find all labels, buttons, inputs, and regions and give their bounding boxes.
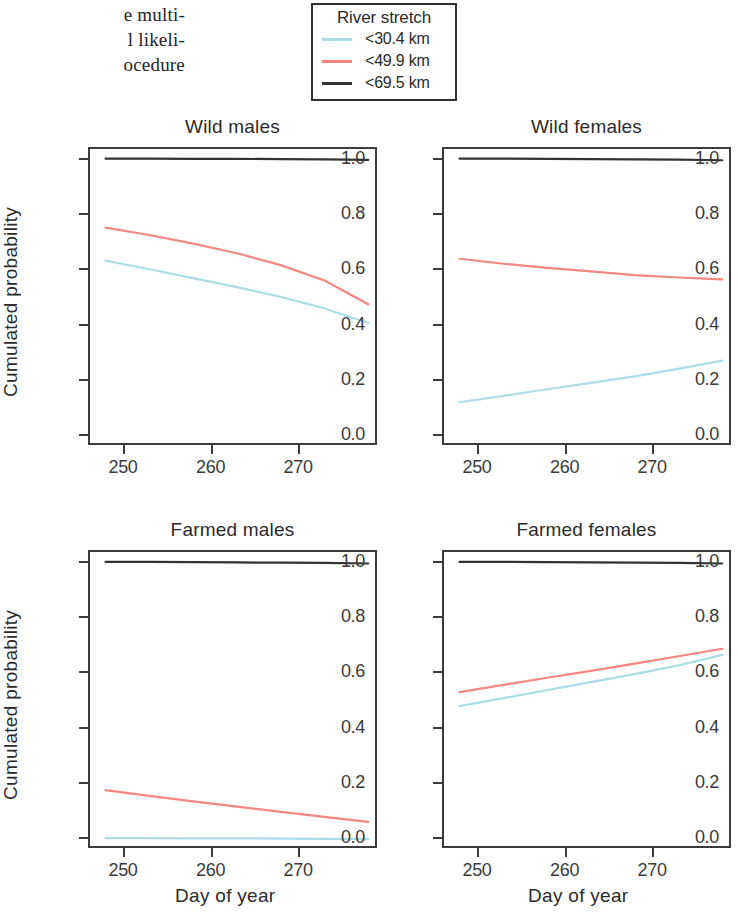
y-axis-tick xyxy=(433,727,442,729)
y-axis-tick xyxy=(433,379,442,381)
y-axis-tick xyxy=(433,158,442,160)
y-axis-tick-label: 0.6 xyxy=(341,661,365,682)
y-axis-tick-label: 0.4 xyxy=(695,716,719,737)
x-axis-tick-label: 260 xyxy=(196,860,225,881)
x-axis-tick xyxy=(211,848,213,857)
y-axis-tick-label: 0.2 xyxy=(695,368,719,389)
y-axis-tick xyxy=(433,671,442,673)
page-text-fragment: e multi- l likeli- ocedure xyxy=(0,2,185,77)
panel-farmed-females: Farmed females 0.00.20.40.60.81.02502602… xyxy=(442,550,731,848)
y-axis-tick xyxy=(433,782,442,784)
series-line xyxy=(460,361,723,403)
y-axis-tick-label: 0.4 xyxy=(695,313,719,334)
series-line xyxy=(460,159,723,161)
legend-color-swatch-icon xyxy=(322,82,352,85)
y-axis-tick xyxy=(433,616,442,618)
panel-title: Wild males xyxy=(88,116,377,138)
y-axis-tick-label: 1.0 xyxy=(341,551,365,572)
series-line xyxy=(106,790,369,822)
legend-item-2: <69.5 km xyxy=(313,72,455,94)
series-line xyxy=(460,649,723,692)
panel-wild-females: Wild females 0.00.20.40.60.81.0250260270 xyxy=(442,147,731,445)
x-axis-tick-label: 260 xyxy=(550,457,579,478)
y-axis-tick xyxy=(79,434,88,436)
plot-lines xyxy=(442,147,731,445)
y-axis-tick-label: 0.4 xyxy=(341,313,365,334)
y-axis-tick-label: 0.2 xyxy=(341,771,365,792)
legend-item-0: <30.4 km xyxy=(313,28,455,50)
y-axis-tick-label: 1.0 xyxy=(695,148,719,169)
plot-lines xyxy=(442,550,731,848)
series-line xyxy=(106,261,369,323)
y-axis-tick xyxy=(79,782,88,784)
panel-farmed-males: Farmed males 0.00.20.40.60.81.0250260270 xyxy=(88,550,377,848)
legend-item-label: <69.5 km xyxy=(365,74,430,92)
y-axis-tick-label: 0.4 xyxy=(341,716,365,737)
x-axis-tick-label: 250 xyxy=(108,457,137,478)
page-text-line-1: e multi- xyxy=(0,2,185,27)
y-axis-tick xyxy=(79,158,88,160)
x-axis-tick xyxy=(123,445,125,454)
y-axis-tick xyxy=(433,837,442,839)
series-line xyxy=(460,259,723,280)
x-axis-tick-label: 270 xyxy=(638,860,667,881)
y-axis-tick xyxy=(79,379,88,381)
y-axis-tick-label: 0.0 xyxy=(341,826,365,847)
y-axis-tick xyxy=(79,671,88,673)
y-axis-tick xyxy=(79,561,88,563)
x-axis-tick xyxy=(565,848,567,857)
x-axis-tick-label: 270 xyxy=(284,860,313,881)
y-axis-tick-label: 0.8 xyxy=(341,203,365,224)
x-axis-tick xyxy=(211,445,213,454)
y-axis-tick xyxy=(433,434,442,436)
x-axis-label-panel-1: Day of year xyxy=(528,885,628,907)
series-line xyxy=(106,838,369,839)
y-axis-tick xyxy=(79,727,88,729)
y-axis-tick-label: 0.8 xyxy=(695,606,719,627)
y-axis-tick-label: 0.6 xyxy=(695,661,719,682)
x-axis-tick xyxy=(652,848,654,857)
x-axis-tick-label: 260 xyxy=(550,860,579,881)
legend-item-label: <49.9 km xyxy=(365,52,430,70)
x-axis-tick xyxy=(298,445,300,454)
x-axis-tick xyxy=(477,445,479,454)
y-axis-tick-label: 0.0 xyxy=(695,423,719,444)
panel-title: Farmed females xyxy=(442,519,731,541)
legend-item-1: <49.9 km xyxy=(313,50,455,72)
y-axis-tick xyxy=(79,268,88,270)
y-axis-tick xyxy=(79,213,88,215)
y-axis-tick xyxy=(79,616,88,618)
y-axis-tick xyxy=(79,324,88,326)
series-line xyxy=(106,159,369,160)
x-axis-tick-label: 260 xyxy=(196,457,225,478)
legend-color-swatch-icon xyxy=(322,38,352,41)
y-axis-label-row2: Cumulated probability xyxy=(0,560,34,850)
plot-lines xyxy=(88,147,377,445)
x-axis-tick-label: 250 xyxy=(462,457,491,478)
x-axis-tick xyxy=(565,445,567,454)
panel-wild-males: Wild males 0.00.20.40.60.81.0250260270 xyxy=(88,147,377,445)
page-text-line-2: l likeli- xyxy=(0,27,185,52)
y-axis-tick-label: 0.2 xyxy=(341,368,365,389)
y-axis-tick-label: 0.8 xyxy=(341,606,365,627)
y-axis-tick xyxy=(79,837,88,839)
x-axis-tick xyxy=(652,445,654,454)
series-line xyxy=(460,655,723,706)
x-axis-label-panel-0: Day of year xyxy=(175,885,275,907)
y-axis-tick-label: 0.0 xyxy=(341,423,365,444)
x-axis-tick-label: 270 xyxy=(284,457,313,478)
y-axis-tick-label: 0.6 xyxy=(695,258,719,279)
y-axis-tick-label: 0.2 xyxy=(695,771,719,792)
y-axis-tick-label: 0.0 xyxy=(695,826,719,847)
x-axis-tick-label: 270 xyxy=(638,457,667,478)
x-axis-tick xyxy=(477,848,479,857)
y-axis-tick xyxy=(433,324,442,326)
x-axis-tick xyxy=(123,848,125,857)
legend: River stretch <30.4 km <49.9 km <69.5 km xyxy=(311,3,457,101)
panel-title: Farmed males xyxy=(88,519,377,541)
y-axis-tick-label: 0.8 xyxy=(695,203,719,224)
y-axis-tick xyxy=(433,561,442,563)
page-text-line-3: ocedure xyxy=(0,52,185,77)
y-axis-label-row1: Cumulated probability xyxy=(0,157,34,447)
y-axis-tick xyxy=(433,213,442,215)
